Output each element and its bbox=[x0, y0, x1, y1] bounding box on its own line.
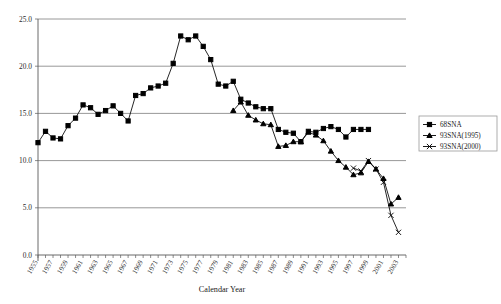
data-point-marker bbox=[359, 127, 363, 131]
axis-ticks bbox=[35, 19, 406, 258]
data-point-marker bbox=[254, 105, 258, 109]
x-tick-label: 1989 bbox=[281, 259, 295, 276]
data-point-marker bbox=[351, 166, 356, 171]
x-tick-label: 1959 bbox=[56, 259, 70, 276]
x-tick-label: 1973 bbox=[161, 259, 175, 276]
x-tick-label: 1965 bbox=[101, 259, 115, 276]
x-tick-label: 1967 bbox=[116, 259, 130, 276]
x-tick-label: 1991 bbox=[296, 259, 310, 276]
data-point-marker bbox=[321, 138, 326, 143]
y-tick-label: 0.0 bbox=[23, 251, 33, 260]
series-3 bbox=[351, 158, 401, 235]
data-point-marker bbox=[231, 79, 235, 83]
data-point-marker bbox=[253, 117, 258, 122]
data-point-marker bbox=[276, 127, 280, 131]
data-point-marker bbox=[119, 111, 123, 115]
data-point-marker bbox=[268, 122, 273, 127]
x-tick-label: 1981 bbox=[221, 259, 235, 276]
data-point-marker bbox=[209, 57, 213, 61]
data-point-marker bbox=[111, 104, 115, 108]
data-point-marker bbox=[36, 141, 40, 145]
data-point-marker bbox=[246, 101, 250, 105]
x-tick-label: 1987 bbox=[266, 259, 280, 276]
data-point-marker bbox=[336, 127, 340, 131]
gridlines bbox=[38, 19, 406, 208]
legend-item-2[interactable]: 93SNA(1995) bbox=[423, 132, 481, 140]
series-1 bbox=[36, 34, 371, 145]
data-point-marker bbox=[186, 38, 190, 42]
x-tick-label: 2003 bbox=[386, 259, 400, 276]
data-point-marker bbox=[329, 125, 333, 129]
series-line bbox=[233, 102, 398, 204]
data-point-marker bbox=[43, 129, 47, 133]
legend-label: 93SNA(2000) bbox=[440, 143, 481, 151]
data-point-marker bbox=[171, 61, 175, 65]
data-point-marker bbox=[58, 137, 62, 141]
chart-container: 25.020.015.010.05.00.0 19551957195919611… bbox=[0, 0, 501, 304]
line-chart: 25.020.015.010.05.00.0 19551957195919611… bbox=[0, 0, 501, 304]
legend-label: 93SNA(1995) bbox=[440, 132, 481, 140]
data-point-marker bbox=[201, 44, 205, 48]
y-axis-tick-labels: 25.020.015.010.05.00.0 bbox=[19, 15, 32, 260]
x-tick-label: 1963 bbox=[86, 259, 100, 276]
data-point-marker bbox=[269, 107, 273, 111]
y-tick-label: 10.0 bbox=[19, 156, 32, 165]
y-tick-label: 25.0 bbox=[19, 15, 32, 24]
legend-item-3[interactable]: 93SNA(2000) bbox=[423, 143, 481, 151]
data-point-marker bbox=[283, 143, 288, 148]
data-point-marker bbox=[164, 81, 168, 85]
data-point-marker bbox=[103, 108, 107, 112]
data-point-marker bbox=[156, 84, 160, 88]
y-tick-label: 20.0 bbox=[19, 62, 32, 71]
data-point-marker bbox=[261, 121, 266, 126]
data-point-marker bbox=[351, 127, 355, 131]
data-point-marker bbox=[261, 107, 265, 111]
x-tick-label: 1999 bbox=[356, 259, 370, 276]
x-tick-label: 1995 bbox=[326, 259, 340, 276]
x-axis-title: Calendar Year bbox=[199, 285, 246, 294]
x-tick-label: 1993 bbox=[311, 259, 325, 276]
legend-item-1[interactable]: 68SNA bbox=[423, 121, 462, 129]
x-tick-label: 1985 bbox=[251, 259, 265, 276]
chart-legend: 68SNA93SNA(1995)93SNA(2000) bbox=[419, 116, 497, 151]
data-point-marker bbox=[73, 116, 77, 120]
x-tick-label: 1983 bbox=[236, 259, 250, 276]
x-axis-tick-labels: 1955195719591961196319651967196919711973… bbox=[26, 259, 401, 276]
data-point-marker bbox=[149, 86, 153, 90]
y-tick-label: 15.0 bbox=[19, 109, 32, 118]
x-tick-label: 1957 bbox=[41, 259, 55, 276]
axis-lines bbox=[38, 19, 406, 261]
data-point-marker bbox=[66, 124, 70, 128]
x-tick-label: 1977 bbox=[191, 259, 205, 276]
x-tick-label: 1997 bbox=[341, 259, 355, 276]
data-point-marker bbox=[321, 126, 325, 130]
x-tick-label: 1971 bbox=[146, 259, 160, 276]
data-point-marker bbox=[134, 93, 138, 97]
x-tick-label: 1961 bbox=[71, 259, 85, 276]
data-point-marker bbox=[179, 34, 183, 38]
data-point-marker bbox=[224, 84, 228, 88]
series-line bbox=[38, 36, 368, 143]
legend-label: 68SNA bbox=[440, 121, 462, 129]
data-point-marker bbox=[291, 131, 295, 135]
data-point-marker bbox=[427, 122, 431, 126]
y-tick-label: 5.0 bbox=[23, 203, 33, 212]
data-point-marker bbox=[396, 230, 401, 235]
data-point-marker bbox=[216, 82, 220, 86]
data-point-marker bbox=[427, 133, 432, 138]
data-point-marker bbox=[366, 127, 370, 131]
data-point-marker bbox=[51, 136, 55, 140]
data-point-marker bbox=[81, 103, 85, 107]
x-tick-label: 1975 bbox=[176, 259, 190, 276]
x-tick-label: 2001 bbox=[371, 259, 385, 276]
data-point-marker bbox=[141, 91, 145, 95]
data-point-marker bbox=[96, 112, 100, 116]
series-2 bbox=[231, 99, 401, 206]
data-series-layer bbox=[36, 34, 401, 235]
x-tick-label: 1979 bbox=[206, 259, 220, 276]
x-tick-label: 1955 bbox=[26, 259, 40, 276]
data-point-marker bbox=[396, 195, 401, 200]
data-point-marker bbox=[344, 135, 348, 139]
data-point-marker bbox=[276, 144, 281, 149]
data-point-marker bbox=[291, 139, 296, 144]
